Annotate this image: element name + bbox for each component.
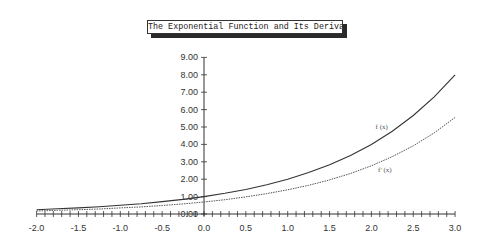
y-tick-label: 5.00	[180, 122, 198, 132]
x-tick-label: 2.5	[407, 223, 420, 233]
x-tick-label: -1.0	[113, 223, 129, 233]
y-tick-label: 6.00	[180, 105, 198, 115]
x-tick-label: -2.0	[29, 223, 45, 233]
y-tick-label: 7.00	[180, 87, 198, 97]
x-tick-label: 3.0	[449, 223, 462, 233]
y-tick-label: 3.00	[180, 157, 198, 167]
x-tick-label: -1.5	[71, 223, 87, 233]
x-tick-label: 0.5	[240, 223, 253, 233]
label-f: f (x)	[376, 123, 389, 131]
axes	[37, 57, 456, 217]
x-tick-label: 2.0	[365, 223, 378, 233]
x-tick-label: -0.5	[154, 223, 170, 233]
y-tick-label: 1.00	[180, 192, 198, 202]
chart-plot: 0.001.002.003.004.005.006.007.008.009.00…	[0, 0, 477, 238]
curve-f	[37, 75, 456, 210]
x-tick-label: 0.0	[198, 223, 211, 233]
y-tick-label: 9.00	[180, 52, 198, 62]
y-tick-label: 2.00	[180, 174, 198, 184]
x-tick-label: 1.5	[323, 223, 336, 233]
y-tick-label: 8.00	[180, 70, 198, 80]
label-f-prime: f' (x)	[378, 166, 392, 174]
y-tick-label: 0.00	[180, 209, 198, 219]
y-tick-label: 4.00	[180, 139, 198, 149]
curves	[37, 75, 456, 211]
axis-labels: 0.001.002.003.004.005.006.007.008.009.00…	[29, 52, 462, 233]
x-tick-label: 1.0	[281, 223, 294, 233]
